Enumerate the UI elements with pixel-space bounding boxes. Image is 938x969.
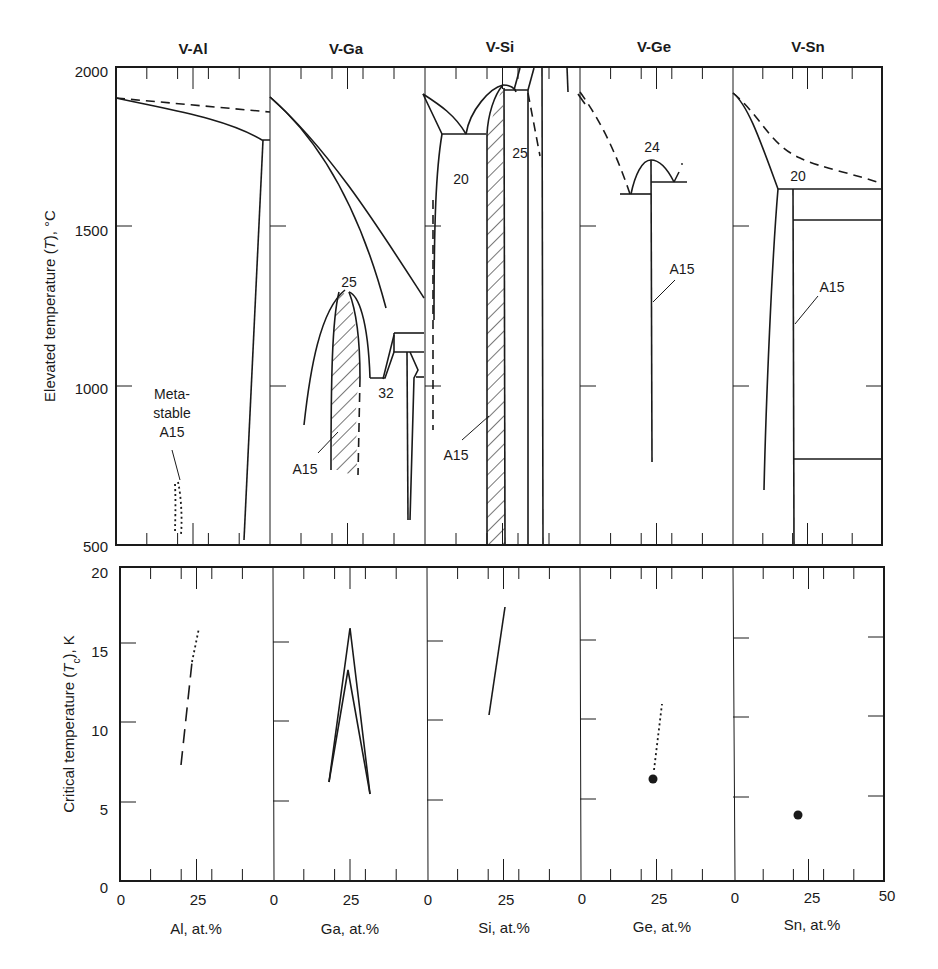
bottom-ytick-20: 20: [91, 564, 108, 581]
annotation-si-a15: A15: [444, 447, 469, 463]
xtick-sn-50: 50: [879, 887, 896, 904]
bottom-chart-frame: [120, 566, 884, 881]
panel-title-v-al: V-Al: [178, 40, 207, 57]
annotation-si-25: 25: [512, 145, 528, 161]
v-sn-phase-diagram: 20 A15: [733, 93, 882, 545]
top-ytick-1000: 1000: [75, 380, 108, 397]
bottom-y-axis-label: Critical temperature (Tc), K: [60, 635, 82, 813]
xtick-ga-25: 25: [343, 891, 360, 908]
bottom-ytick-0: 0: [100, 879, 108, 896]
tc-v-si: [489, 607, 505, 715]
xtick-si-25: 25: [498, 891, 515, 908]
xtick-sn-25: 25: [804, 889, 821, 906]
v-ge-phase-diagram: 24 A15: [580, 92, 695, 462]
xtick-ga-0: 0: [270, 891, 278, 908]
annotation-ge-24: 24: [644, 139, 660, 155]
annotation-stable: stable: [153, 405, 191, 421]
top-ytick-2000: 2000: [75, 63, 108, 80]
xlabel-si: Si, at.%: [478, 919, 530, 936]
xlabel-sn: Sn, at.%: [784, 916, 841, 933]
annotation-sn-a15: A15: [820, 279, 845, 295]
xtick-sn-0: 0: [731, 889, 739, 906]
xtick-ge-25: 25: [651, 890, 668, 907]
v-al-phase-diagram: Meta- stable A15: [116, 98, 270, 540]
annotation-ga-32: 32: [378, 385, 394, 401]
xlabel-ge: Ge, at.%: [633, 918, 691, 935]
bottom-ytick-10: 10: [91, 722, 108, 739]
bottom-ytick-15: 15: [91, 643, 108, 660]
tc-v-ge: [649, 704, 663, 784]
annotation-a15-al: A15: [160, 424, 185, 440]
top-y-axis-label: Elevated temperature (T), °C: [41, 210, 58, 402]
annotation-meta: Meta-: [154, 386, 190, 402]
tc-v-ga: [329, 628, 370, 794]
bottom-ytick-5: 5: [100, 801, 108, 818]
v-si-phase-diagram: 20 25 A15: [423, 67, 585, 545]
annotation-ge-a15: A15: [670, 261, 695, 277]
xlabel-ga: Ga, at.%: [321, 920, 379, 937]
v-ga-phase-diagram: 25 32 A15: [270, 97, 424, 520]
annotation-sn-20: 20: [790, 168, 806, 184]
tc-v-sn: [794, 811, 803, 820]
annotation-ga-25: 25: [341, 274, 357, 290]
annotation-si-20: 20: [453, 171, 469, 187]
panel-title-v-ge: V-Ge: [637, 38, 671, 55]
xtick-ge-0: 0: [578, 890, 586, 907]
panel-title-v-ga: V-Ga: [329, 40, 364, 57]
top-ytick-500: 500: [83, 538, 108, 555]
xtick-al-25: 25: [190, 891, 207, 908]
phase-diagram-figure: V-Al V-Ga V-Si V-Ge V-Sn Elevated temper…: [0, 0, 938, 969]
panel-title-v-si: V-Si: [486, 38, 514, 55]
tc-v-al: [181, 628, 199, 765]
xtick-al-0: 0: [117, 891, 125, 908]
panel-title-v-sn: V-Sn: [791, 38, 824, 55]
top-ytick-1500: 1500: [75, 222, 108, 239]
xtick-si-0: 0: [424, 891, 432, 908]
xlabel-al: Al, at.%: [170, 920, 222, 937]
annotation-ga-a15: A15: [293, 461, 318, 477]
